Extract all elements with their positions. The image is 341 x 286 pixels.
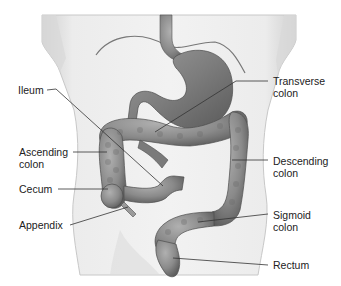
label-ascending-colon: Ascending colon bbox=[19, 146, 68, 170]
label-descending-colon: Descending colon bbox=[273, 155, 328, 179]
anatomy-diagram: Ileum Ascending colon Cecum Appendix Tra… bbox=[0, 0, 341, 286]
label-sigmoid-colon: Sigmoid colon bbox=[273, 209, 311, 233]
label-appendix: Appendix bbox=[19, 219, 63, 231]
cecum bbox=[101, 184, 123, 208]
anatomy-illustration bbox=[0, 0, 341, 286]
label-cecum: Cecum bbox=[19, 183, 52, 195]
label-transverse-colon: Transverse colon bbox=[273, 75, 325, 99]
label-ileum: Ileum bbox=[18, 84, 44, 96]
label-rectum: Rectum bbox=[273, 259, 309, 271]
